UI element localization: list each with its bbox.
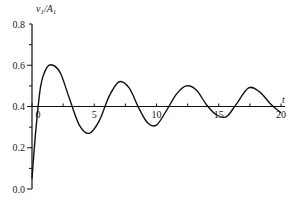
y-axis-title: v1/A1 xyxy=(36,3,56,16)
x-axis: 05101520 xyxy=(32,104,286,120)
x-axis-title: t xyxy=(282,94,285,105)
y-tick-label: 0.0 xyxy=(13,184,26,195)
y-tick-label: 0.6 xyxy=(13,60,26,71)
y-tick-label: 0.4 xyxy=(13,101,26,112)
x-tick-label: 10 xyxy=(152,109,162,120)
y-tick-label: 0.2 xyxy=(13,142,26,153)
data-curve xyxy=(32,65,281,179)
y-tick-label: 0.8 xyxy=(13,19,26,30)
y-axis: 0.00.20.40.60.8 xyxy=(13,19,33,195)
x-tick-label: 5 xyxy=(92,109,97,120)
line-chart: 0.00.20.40.60.8 05101520 v1/A1 t xyxy=(0,0,300,204)
